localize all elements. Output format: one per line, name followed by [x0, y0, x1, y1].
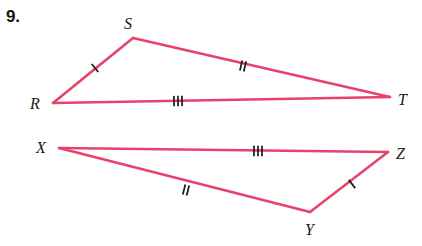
vertex-label-z: Z	[396, 146, 405, 162]
vertex-label-x: X	[36, 140, 46, 156]
triangle-rst	[53, 38, 390, 106]
geometry-diagram	[0, 0, 422, 246]
side-xy-tick-marks	[183, 184, 189, 195]
side-yz	[310, 152, 388, 212]
side-st	[133, 38, 390, 97]
vertex-label-y: Y	[305, 222, 314, 238]
vertex-label-s: S	[124, 16, 132, 32]
side-xz	[59, 148, 388, 152]
tick-mark	[183, 184, 186, 194]
side-rs	[53, 38, 133, 103]
geometry-figure-page: 9. RSTXZY	[0, 0, 422, 246]
tick-mark	[187, 185, 190, 195]
side-rt	[53, 97, 390, 103]
triangle-xyz	[59, 146, 388, 212]
vertex-label-t: T	[398, 92, 407, 108]
side-xy	[59, 148, 310, 212]
vertex-label-r: R	[30, 96, 40, 112]
